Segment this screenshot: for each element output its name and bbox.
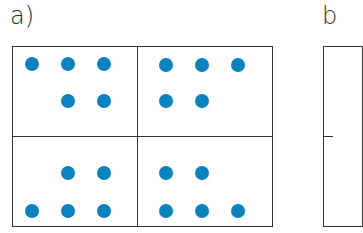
dot	[97, 204, 111, 218]
dot	[195, 204, 209, 218]
panel-a-horizontal-divider	[12, 136, 273, 137]
panel-b-label: b	[322, 4, 337, 28]
dot	[231, 58, 245, 72]
dot	[159, 204, 173, 218]
dot	[195, 58, 209, 72]
dot	[159, 166, 173, 180]
panel-b-horizontal-divider	[323, 136, 333, 137]
dot	[97, 166, 111, 180]
dot	[159, 58, 173, 72]
dot	[195, 94, 209, 108]
dot	[97, 57, 111, 71]
dot	[61, 166, 75, 180]
dot	[61, 57, 75, 71]
dot	[231, 204, 245, 218]
panel-a-label: a)	[10, 4, 34, 28]
dot	[159, 94, 173, 108]
dot	[25, 57, 39, 71]
dot	[61, 94, 75, 108]
dot	[195, 166, 209, 180]
dot	[61, 204, 75, 218]
dot	[97, 94, 111, 108]
dot	[25, 204, 39, 218]
